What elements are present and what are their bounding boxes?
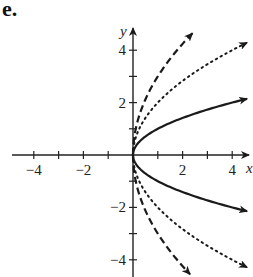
x-tick-label: 2 <box>179 162 187 178</box>
solid-curve-upper <box>133 99 247 155</box>
x-tick-label: 4 <box>228 162 236 178</box>
x-axis-label: x <box>245 160 253 176</box>
y-tick-label: 4 <box>119 42 127 58</box>
x-tick-label: −4 <box>26 162 42 178</box>
y-tick-label: 2 <box>119 95 127 111</box>
y-tick-label: −2 <box>110 199 126 215</box>
dashed-curve-upper <box>133 33 193 155</box>
curves <box>133 33 247 274</box>
parabola-plot: −4−22442−2−4xy <box>0 0 253 277</box>
y-tick-label: −4 <box>110 252 126 268</box>
y-axis-label: y <box>118 23 127 39</box>
x-tick-label: −2 <box>75 162 91 178</box>
dotted-curve-upper <box>133 43 247 155</box>
